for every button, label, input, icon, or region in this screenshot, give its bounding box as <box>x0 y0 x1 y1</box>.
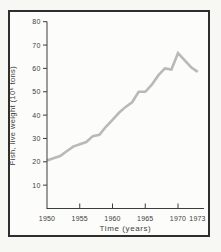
x-tick-label: 1973 <box>189 215 205 222</box>
y-axis-title: Fish, live weight (10⁶ tons) <box>8 61 17 171</box>
y-tick-label: 20 <box>32 158 40 165</box>
y-tick-label: 10 <box>32 182 40 189</box>
x-tick-label: 1950 <box>39 215 55 222</box>
x-tick-label: 1965 <box>137 215 153 222</box>
x-tick-label: 1970 <box>170 215 186 222</box>
y-tick-label: 30 <box>32 135 40 142</box>
y-tick-label: 60 <box>32 65 40 72</box>
y-tick-label: 70 <box>32 42 40 49</box>
x-tick-label: 1960 <box>104 215 120 222</box>
x-tick-label: 1955 <box>72 215 88 222</box>
y-tick-label: 50 <box>32 88 40 95</box>
fish-weight-line <box>47 53 198 160</box>
line-chart: 1020304050607080195019551960196519701973 <box>0 0 221 252</box>
y-tick-label: 80 <box>32 18 40 25</box>
y-tick-label: 40 <box>32 112 40 119</box>
figure: 1020304050607080195019551960196519701973… <box>0 0 221 252</box>
x-axis-title: Time (years) <box>47 224 204 233</box>
